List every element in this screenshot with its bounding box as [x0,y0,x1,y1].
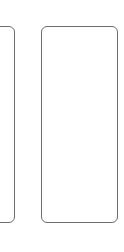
panel-left-card [0,26,15,223]
panel-right-card [41,26,118,223]
